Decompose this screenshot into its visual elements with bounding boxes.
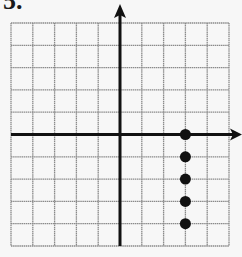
data-point xyxy=(180,174,191,185)
data-point xyxy=(180,151,191,162)
data-point xyxy=(180,218,191,229)
coordinate-grid-plot xyxy=(0,0,242,257)
data-point xyxy=(180,129,191,140)
data-point xyxy=(180,196,191,207)
